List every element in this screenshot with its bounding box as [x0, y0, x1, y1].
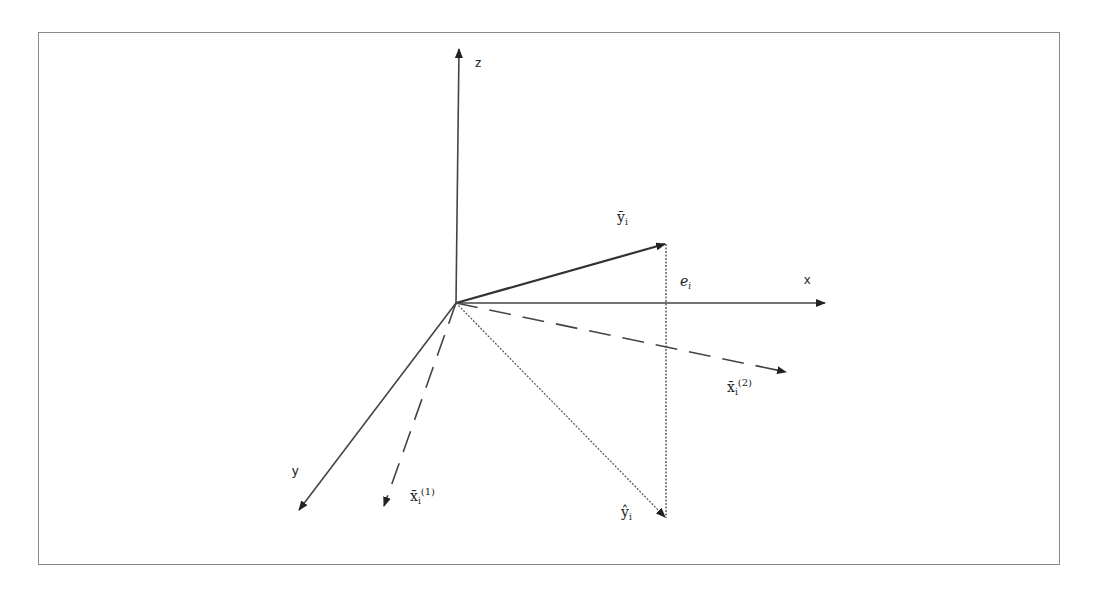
x1-bar-vector [384, 303, 456, 506]
x2-bar-symbol: x̄ [727, 379, 735, 395]
error-label: ei [680, 274, 691, 291]
y-bar-label: ȳi [617, 210, 628, 227]
y-hat-label: ŷi [621, 505, 632, 522]
z-axis [456, 49, 459, 303]
y-hat-vector [456, 303, 665, 517]
x1-bar-symbol: x̄ [410, 488, 418, 504]
y-hat-symbol: ŷ [621, 504, 629, 520]
y-axis-label: y [292, 464, 299, 477]
y-bar-subscript: i [625, 217, 628, 227]
x2-bar-superscript: (2) [738, 377, 752, 388]
x1-bar-superscript: (1) [421, 486, 435, 497]
y-axis [299, 303, 456, 510]
x1-bar-label: x̄i(1) [410, 487, 435, 506]
y-bar-vector [456, 244, 665, 303]
x1-bar-subscript: i [418, 496, 421, 506]
y-bar-symbol: ȳ [617, 209, 625, 225]
x2-bar-vector [456, 303, 786, 372]
error-subscript: i [688, 281, 691, 291]
x2-bar-label: x̄i(2) [727, 378, 752, 397]
x-axis-label: x [804, 273, 811, 286]
y-hat-subscript: i [629, 512, 632, 522]
z-axis-label: z [475, 56, 482, 69]
vector-diagram [0, 0, 1093, 597]
x2-bar-subscript: i [735, 387, 738, 397]
